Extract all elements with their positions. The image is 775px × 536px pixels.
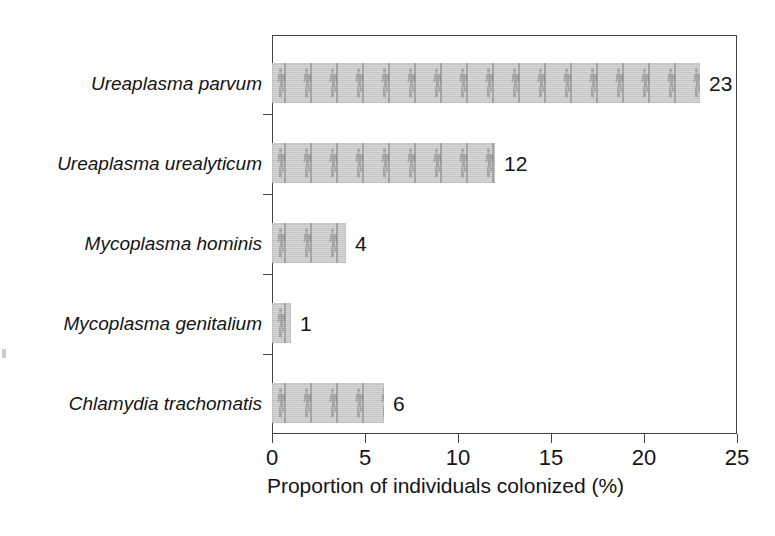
human-figure-icon xyxy=(276,148,285,178)
human-figure-icon xyxy=(276,308,285,338)
x-axis-tick-label-4: 20 xyxy=(632,447,656,469)
human-figure-icon xyxy=(276,228,285,258)
y-axis-tick-2 xyxy=(263,274,272,275)
human-figure-icon xyxy=(406,68,415,98)
human-figure-icon xyxy=(406,148,415,178)
scan-edge-artifact xyxy=(2,349,6,358)
human-figure-icon xyxy=(562,68,571,98)
category-label-3: Mycoplasma genitalium xyxy=(63,314,262,333)
category-label-0: Ureaplasma parvum xyxy=(91,74,262,93)
y-axis-tick-1 xyxy=(263,194,272,195)
x-axis-tick-2 xyxy=(458,434,459,443)
human-figure-icon xyxy=(302,148,311,178)
human-figure-icon xyxy=(432,68,441,98)
bar-value-label-3: 1 xyxy=(300,313,312,334)
bar-value-label-1: 12 xyxy=(504,153,527,174)
x-axis-tick-0 xyxy=(272,434,273,443)
human-figure-icon xyxy=(302,228,311,258)
bar-value-label-4: 6 xyxy=(393,393,405,414)
human-figure-icon xyxy=(458,68,467,98)
category-label-2: Mycoplasma hominis xyxy=(85,234,262,253)
x-axis-tick-label-0: 0 xyxy=(266,447,278,469)
x-axis-tick-label-2: 10 xyxy=(446,447,470,469)
bar-chart-figure: Ureaplasma parvum Ureaplasma urealyticum… xyxy=(0,0,775,536)
x-axis-title-text: Proportion of individuals colonized (%) xyxy=(267,474,624,498)
bars-layer: 23 12 4 1 6 xyxy=(272,35,737,434)
category-axis-labels: Ureaplasma parvum Ureaplasma urealyticum… xyxy=(0,35,262,434)
category-label-1: Ureaplasma urealyticum xyxy=(57,154,262,173)
bar-value-label-0: 23 xyxy=(709,73,732,94)
human-figure-icon xyxy=(276,388,285,418)
x-axis-tick-label-5: 25 xyxy=(725,447,749,469)
bar-value-label-2: 4 xyxy=(355,233,367,254)
x-axis-tick-label-3: 15 xyxy=(539,447,563,469)
human-figure-icon xyxy=(302,388,311,418)
x-axis-tick-label-1: 5 xyxy=(359,447,371,469)
x-axis-tick-3 xyxy=(551,434,552,443)
human-figure-icon xyxy=(302,68,311,98)
x-axis-title: Proportion of individuals colonized (%) xyxy=(0,474,775,498)
human-figure-icon xyxy=(276,68,285,98)
bar-ureaplasma-parvum xyxy=(272,63,700,103)
bar-ureaplasma-urealyticum xyxy=(272,143,495,183)
y-axis-tick-0 xyxy=(263,114,272,115)
human-figure-icon xyxy=(614,68,623,98)
human-figure-icon xyxy=(328,68,337,98)
human-figure-icon xyxy=(484,68,493,98)
human-figure-icon xyxy=(588,68,597,98)
category-label-4: Chlamydia trachomatis xyxy=(69,394,262,413)
x-axis-tick-1 xyxy=(365,434,366,443)
y-axis-tick-3 xyxy=(263,354,272,355)
bar-mycoplasma-hominis xyxy=(272,223,346,263)
bar-chlamydia-trachomatis xyxy=(272,383,384,423)
human-figure-icon xyxy=(484,148,493,178)
x-axis-tick-4 xyxy=(644,434,645,443)
human-figure-icon xyxy=(458,148,467,178)
human-figure-icon xyxy=(380,388,384,418)
human-figure-icon xyxy=(328,388,337,418)
x-axis-tick-5 xyxy=(737,434,738,443)
human-figure-icon xyxy=(328,148,337,178)
human-figure-icon xyxy=(510,68,519,98)
human-figure-icon xyxy=(354,388,363,418)
human-figure-icon xyxy=(380,68,389,98)
human-figure-icon xyxy=(536,68,545,98)
human-figure-icon xyxy=(380,148,389,178)
human-figure-icon xyxy=(354,68,363,98)
human-figure-icon xyxy=(432,148,441,178)
human-figure-icon xyxy=(328,228,337,258)
human-figure-icon xyxy=(692,68,700,98)
human-figure-icon xyxy=(354,148,363,178)
bar-mycoplasma-genitalium xyxy=(272,303,291,343)
human-figure-icon xyxy=(640,68,649,98)
human-figure-icon xyxy=(666,68,675,98)
